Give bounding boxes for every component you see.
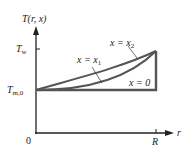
x-axis bbox=[35, 129, 174, 136]
curve-label-x0: x = 0 bbox=[128, 77, 150, 88]
curve-label-x2: x = x2 bbox=[109, 37, 135, 50]
x-axis-label: r bbox=[177, 127, 181, 138]
y-axis-label: T(r, x) bbox=[22, 13, 47, 25]
origin-label: 0 bbox=[26, 135, 31, 146]
tm0-label: Tm,0 bbox=[7, 84, 24, 97]
tw-label: Tw bbox=[16, 43, 28, 56]
y-axis bbox=[33, 26, 40, 134]
x-axis-arrow-icon bbox=[165, 130, 174, 136]
r-tick-label: R bbox=[151, 136, 158, 147]
leader-x1 bbox=[92, 67, 102, 83]
temperature-profile-diagram: T(r, x) Tw Tm,0 x = x2 x = x1 x = 0 0 R … bbox=[0, 0, 191, 151]
y-axis-arrow-icon bbox=[33, 26, 39, 35]
curve-label-x1: x = x1 bbox=[76, 54, 102, 67]
